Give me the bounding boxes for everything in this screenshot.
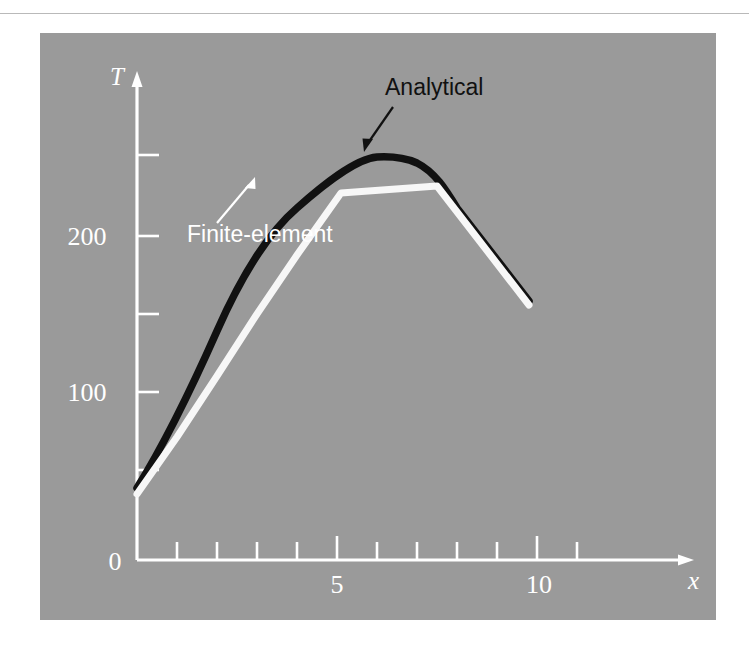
- y-axis-label: T: [110, 63, 126, 90]
- analytical-leader-arrowhead: [363, 139, 374, 153]
- analytical-label-text: Analytical: [385, 74, 483, 100]
- x-axis-group: x: [137, 555, 699, 595]
- y-tick-labels: 200 100 0: [68, 222, 122, 576]
- finite-element-annotation: Finite-element: [187, 177, 333, 247]
- analytical-leader-line: [368, 107, 393, 143]
- y-axis-arrowhead: [132, 71, 143, 87]
- finite-element-leader-arrowhead: [245, 177, 256, 189]
- y-tick-label-0: 0: [109, 547, 122, 576]
- y-tick-label-100: 100: [68, 378, 107, 407]
- finite-element-label-text: Finite-element: [187, 221, 333, 247]
- x-tick-labels: 5 10: [331, 570, 553, 599]
- plot-svg: T x 200: [40, 33, 716, 620]
- analytical-annotation: Analytical: [363, 74, 484, 152]
- x-tick-marks: [177, 536, 577, 560]
- x-axis-arrowhead: [678, 555, 694, 566]
- x-tick-label-10: 10: [526, 570, 552, 599]
- finite-element-leader-line: [217, 185, 249, 223]
- plot-panel: T x 200: [40, 33, 716, 620]
- x-axis-label: x: [687, 567, 699, 594]
- y-tick-marks: [137, 155, 159, 470]
- x-tick-label-5: 5: [331, 570, 344, 599]
- y-tick-label-200: 200: [68, 222, 107, 251]
- figure-root: T x 200: [0, 0, 749, 657]
- page-top-rule: [0, 13, 749, 14]
